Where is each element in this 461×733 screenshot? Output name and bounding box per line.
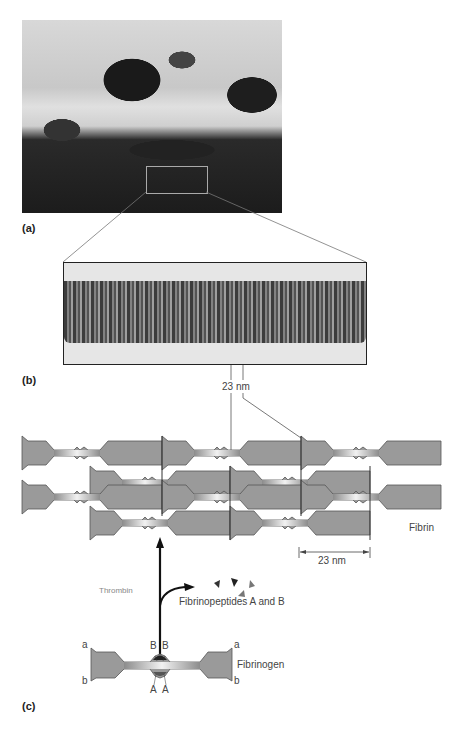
fibrinopeptides-label: Fibrinopeptides A and B: [179, 596, 285, 607]
period-label-top: 23 nm: [222, 381, 250, 392]
site-label-B1: B: [150, 640, 157, 651]
thrombin-label: Thrombin: [99, 586, 133, 595]
site-label-B2: B: [162, 640, 169, 651]
panel-label-b: (b): [22, 374, 36, 386]
panel-label-c: (c): [22, 700, 35, 712]
fibrinogen-molecule: [91, 648, 232, 685]
end-label-b-left: b: [82, 675, 88, 686]
end-label-a-right: a: [234, 639, 240, 650]
fiber-micrograph: [63, 262, 367, 365]
end-label-b-right: b: [234, 675, 240, 686]
scale-bar-label: 23 nm: [318, 555, 346, 566]
fibrin-polymer: [22, 436, 441, 540]
diagram-canvas: [0, 0, 461, 733]
site-label-A1: A: [150, 684, 157, 695]
fibrin-label: Fibrin: [409, 522, 434, 533]
zoom-connector-left: [63, 192, 146, 262]
zoom-connector-right: [206, 192, 366, 262]
fibrinopeptide-fragments: [214, 578, 255, 597]
end-label-a-left: a: [82, 639, 88, 650]
fibrinogen-label: Fibrinogen: [237, 659, 284, 670]
site-label-A2: A: [162, 684, 169, 695]
